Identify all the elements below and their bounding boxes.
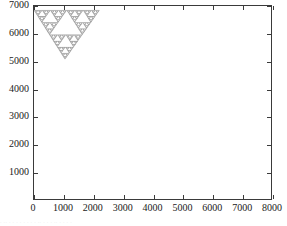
fractal-cell bbox=[51, 11, 52, 12]
fractal-cell bbox=[58, 47, 59, 48]
fractal-cell bbox=[62, 47, 63, 48]
fractal-cell bbox=[95, 10, 96, 11]
fractal-cell bbox=[57, 44, 58, 45]
fractal-cell bbox=[74, 42, 75, 43]
fractal-cell bbox=[64, 13, 65, 14]
fractal-cell bbox=[82, 22, 83, 23]
fractal-cell bbox=[56, 42, 57, 43]
fractal-cell bbox=[80, 24, 81, 25]
fractal-cell bbox=[86, 14, 87, 15]
fractal-cell bbox=[88, 24, 89, 25]
fractal-cell bbox=[76, 24, 77, 25]
fractal-cell bbox=[60, 12, 61, 13]
fractal-cell bbox=[76, 13, 77, 14]
fractal-cell bbox=[82, 11, 83, 12]
fractal-cell bbox=[72, 41, 73, 42]
fractal-cell bbox=[82, 29, 83, 30]
fractal-cell bbox=[49, 33, 50, 34]
fractal-cell bbox=[50, 32, 51, 33]
fractal-cell bbox=[91, 16, 92, 17]
fractal-cell bbox=[95, 16, 96, 17]
fractal-cell bbox=[47, 13, 48, 14]
fractal-cell bbox=[76, 10, 77, 11]
fractal-cell bbox=[77, 13, 78, 14]
fractal-cell bbox=[70, 15, 71, 16]
fractal-cell bbox=[89, 16, 90, 17]
fractal-cell bbox=[48, 29, 49, 30]
fractal-cell bbox=[68, 52, 69, 53]
fractal-cell bbox=[70, 50, 71, 51]
fractal-cell bbox=[60, 41, 61, 42]
fractal-cell bbox=[68, 48, 69, 49]
fractal-cell bbox=[85, 22, 86, 23]
fractal-cell bbox=[58, 44, 59, 45]
fractal-cell bbox=[72, 35, 73, 36]
fractal-cell bbox=[44, 17, 45, 18]
fractal-cell bbox=[75, 36, 76, 37]
x-axis-tick bbox=[243, 195, 244, 199]
fractal-cell bbox=[77, 39, 78, 40]
fractal-cell bbox=[80, 36, 81, 37]
fractal-cell bbox=[47, 24, 48, 25]
fractal-cell bbox=[54, 38, 55, 39]
fractal-cell bbox=[52, 26, 53, 27]
fractal-cell bbox=[76, 35, 77, 36]
fractal-cell bbox=[77, 26, 78, 27]
x-axis-tick bbox=[94, 195, 95, 199]
fractal-cell bbox=[79, 15, 80, 16]
fractal-cell bbox=[63, 10, 64, 11]
fractal-cell bbox=[62, 38, 63, 39]
fractal-cell bbox=[61, 10, 62, 11]
fractal-cell bbox=[44, 24, 45, 25]
fractal-cell bbox=[87, 13, 88, 14]
fractal-cell bbox=[86, 11, 87, 12]
fractal-cell bbox=[76, 42, 77, 43]
fractal-cell bbox=[53, 26, 54, 27]
fractal-cell bbox=[64, 35, 65, 36]
fractal-cell bbox=[62, 53, 63, 54]
fractal-cell bbox=[76, 39, 77, 40]
fractal-cell bbox=[61, 47, 62, 48]
fractal-cell bbox=[55, 24, 56, 25]
fractal-cell bbox=[60, 50, 61, 51]
fractal-cell bbox=[54, 36, 55, 37]
fractal-cell bbox=[68, 47, 69, 48]
fractal-cell bbox=[37, 10, 38, 11]
fractal-cell bbox=[72, 48, 73, 49]
fractal-cell bbox=[93, 13, 94, 14]
fractal-cell bbox=[76, 12, 77, 13]
fractal-cell bbox=[52, 24, 53, 25]
x-axis-tick-label: 1000 bbox=[53, 203, 73, 213]
fractal-cell bbox=[69, 40, 70, 41]
fractal-cell bbox=[66, 53, 67, 54]
fractal-cell bbox=[58, 22, 59, 23]
fractal-cell bbox=[86, 10, 87, 11]
fractal-cell bbox=[74, 21, 75, 22]
fractal-cell bbox=[72, 18, 73, 19]
fractal-cell bbox=[82, 10, 83, 11]
fractal-cell bbox=[63, 11, 64, 12]
fractal-cell bbox=[70, 35, 71, 36]
fractal-cell bbox=[97, 13, 98, 14]
fractal-cell bbox=[85, 13, 86, 14]
fractal-cell bbox=[70, 10, 71, 11]
fractal-cell bbox=[73, 44, 74, 45]
fractal-cell bbox=[70, 42, 71, 43]
fractal-cell bbox=[70, 39, 71, 40]
fractal-cell bbox=[82, 34, 83, 35]
fractal-cell bbox=[81, 23, 82, 24]
fractal-cell bbox=[77, 16, 78, 17]
fractal-cell bbox=[78, 16, 79, 17]
fractal-cell bbox=[47, 30, 48, 31]
fractal-cell bbox=[71, 35, 72, 36]
fractal-cell bbox=[61, 38, 62, 39]
fractal-cell bbox=[57, 45, 58, 46]
fractal-cell bbox=[79, 26, 80, 27]
fractal-cell bbox=[78, 10, 79, 11]
fractal-cell bbox=[53, 38, 54, 39]
fractal-cell bbox=[75, 10, 76, 11]
fractal-cell bbox=[61, 52, 62, 53]
fractal-cell bbox=[49, 29, 50, 30]
fractal-cell bbox=[43, 16, 44, 17]
fractal-cell bbox=[88, 22, 89, 23]
